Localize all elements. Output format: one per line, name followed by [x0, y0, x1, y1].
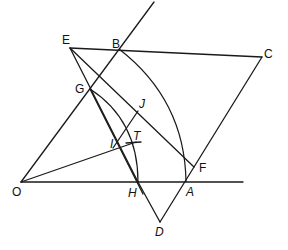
label-D: D: [155, 225, 164, 239]
label-I: I: [110, 137, 114, 151]
line-CD: [160, 57, 262, 222]
label-A: A: [185, 185, 194, 199]
line-OB-extended: [21, 2, 154, 182]
arc-BA: [119, 49, 186, 182]
label-E: E: [62, 33, 70, 47]
geometry-diagram: E B C G J I T O H A F D: [0, 0, 288, 250]
line-EC: [70, 48, 262, 57]
line-EF: [70, 48, 194, 167]
label-O: O: [12, 185, 21, 199]
label-F: F: [199, 161, 206, 175]
label-B: B: [112, 37, 120, 51]
label-J: J: [138, 97, 146, 111]
line-DH: [138, 182, 160, 222]
label-T: T: [133, 129, 142, 143]
label-H: H: [128, 186, 137, 200]
label-C: C: [264, 47, 273, 61]
line-OT: [21, 142, 136, 182]
label-G: G: [75, 82, 84, 96]
